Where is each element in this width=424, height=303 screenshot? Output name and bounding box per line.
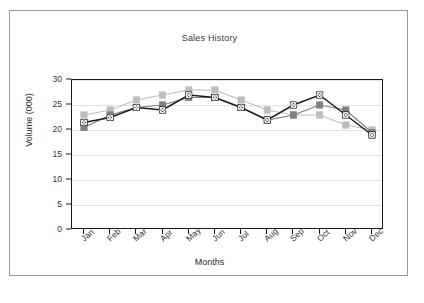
chart-frame: Sales History Volume (000) 051015202530 … xyxy=(9,10,408,276)
series-line xyxy=(84,95,372,135)
data-point-marker xyxy=(316,102,322,108)
x-tick-label: Aug xyxy=(262,226,280,244)
data-point-marker xyxy=(264,107,270,113)
x-tick-label: Dec xyxy=(367,226,385,244)
series-3 xyxy=(81,87,375,133)
figure-root: Sales History Volume (000) 051015202530 … xyxy=(0,0,424,303)
data-point-marker xyxy=(81,112,87,118)
x-tick-label: Feb xyxy=(105,226,123,243)
x-tick-label: Oct xyxy=(315,227,332,243)
plot-area xyxy=(71,79,383,229)
data-point-marker xyxy=(159,92,165,98)
x-tick-label: Jul xyxy=(236,229,251,244)
series-2 xyxy=(81,94,375,135)
data-point-marker xyxy=(238,97,244,103)
x-tick-label: Jun xyxy=(210,227,227,244)
data-point-marker xyxy=(343,122,349,128)
series-layer xyxy=(60,68,396,242)
x-tick-label: Apr xyxy=(158,227,175,243)
data-point-marker xyxy=(212,87,218,93)
data-point-marker xyxy=(316,112,322,118)
x-axis-title: Months xyxy=(10,257,409,267)
data-point-marker xyxy=(290,112,296,118)
x-tick-label: Mar xyxy=(131,226,149,243)
x-tick-label: Jan xyxy=(79,227,96,244)
data-point-marker xyxy=(133,97,139,103)
x-tick-label: Sep xyxy=(288,226,306,244)
chart-title: Sales History xyxy=(10,33,409,43)
x-tick-label: Nov xyxy=(341,226,359,244)
series-1 xyxy=(81,92,375,138)
